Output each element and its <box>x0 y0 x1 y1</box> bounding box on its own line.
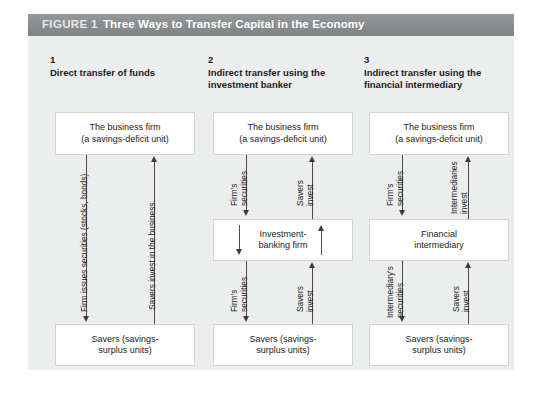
column-2-number: 2 <box>208 54 213 65</box>
column-2-upper-down-label-line2: securities <box>239 171 249 206</box>
column-1-number: 1 <box>50 54 55 65</box>
column-1-business-firm-line2: (a savings-deficit unit) <box>81 134 169 144</box>
column-2-upper-up-label-line1: Savers <box>295 180 305 206</box>
column-3-number: 3 <box>364 54 369 65</box>
column-2-upper-up-arrowhead <box>309 156 315 162</box>
column-2-lower-down-label-line2: securities <box>239 277 249 312</box>
column-3-heading: Indirect transfer using the financial in… <box>364 67 514 90</box>
column-2-inbox-down-arrow <box>236 225 243 255</box>
column-1-up-arrowhead <box>151 156 157 162</box>
column-2-upper-down-arrow-label: Firm's securities <box>230 171 249 206</box>
column-3-upper-up-label-line2: invest <box>459 192 469 214</box>
column-1-down-arrow-label: Firm issues securities (stocks, bonds) <box>80 174 90 312</box>
column-2-lower-down-arrow-label: Firm's securities <box>230 277 249 312</box>
column-2-lower-down-arrowhead <box>243 316 249 322</box>
column-2-business-firm-line1: The business firm <box>247 122 318 132</box>
column-3-financial-intermediary-box: Financial intermediary <box>369 219 509 261</box>
column-3-upper-up-label-line1: Intermediaries <box>449 161 459 214</box>
column-1-heading: Direct transfer of funds <box>50 67 200 79</box>
column-2-inbox-up-arrow <box>318 225 325 255</box>
column-1-business-firm-line1: The business firm <box>89 122 160 132</box>
column-3-heading-line2: financial intermediary <box>364 79 462 90</box>
column-2-savers-box: Savers (savings- surplus units) <box>213 324 353 366</box>
column-3-upper-down-label-line1: Firm's <box>385 184 395 206</box>
column-3-middle-box-line2: intermediary <box>414 240 464 250</box>
column-3-lower-down-arrow-label: Intermediary's securities <box>386 266 405 318</box>
figure-header-bar: FIGURE 1 Three Ways to Transfer Capital … <box>28 14 514 36</box>
column-2-savers-line2: surplus units) <box>256 345 310 355</box>
column-3-lower-up-arrow-label: Savers invest <box>452 286 471 312</box>
column-2-heading: Indirect transfer using the investment b… <box>208 67 358 90</box>
column-2-middle-box-line1: Investment- <box>259 229 306 239</box>
column-2-middle-box-line2: banking firm <box>258 240 307 250</box>
column-3-upper-down-arrow-label: Firm's securities <box>386 171 405 206</box>
column-3-savers-box: Savers (savings- surplus units) <box>369 324 509 366</box>
column-2-savers-line1: Savers (savings- <box>249 334 316 344</box>
column-3-lower-up-arrowhead <box>465 262 471 268</box>
column-3-heading-line1: Indirect transfer using the <box>364 67 481 78</box>
column-2-heading-line1: Indirect transfer using the <box>208 67 325 78</box>
column-3-lower-down-label-line1: Intermediary's <box>385 266 395 318</box>
column-3-savers-line1: Savers (savings- <box>405 334 472 344</box>
column-1-savers-line2: surplus units) <box>98 345 152 355</box>
figure-panel: FIGURE 1 Three Ways to Transfer Capital … <box>28 14 514 370</box>
column-3-lower-down-label-line2: securities <box>395 283 405 318</box>
column-1-savers-line1: Savers (savings- <box>91 334 158 344</box>
column-3-upper-down-arrowhead <box>399 210 405 216</box>
column-3-lower-up-label-line1: Savers <box>451 286 461 312</box>
column-3-financial-intermediary: 3 Indirect transfer using the financial … <box>364 54 514 366</box>
column-2-lower-up-label-line1: Savers <box>295 286 305 312</box>
column-1-down-arrowhead <box>83 316 89 322</box>
column-1-savers-box: Savers (savings- surplus units) <box>55 324 195 366</box>
figure-title: Three Ways to Transfer Capital in the Ec… <box>103 18 365 30</box>
column-2-lower-up-arrow-label: Savers invest <box>296 286 315 312</box>
column-2-upper-down-label-line1: Firm's <box>229 184 239 206</box>
column-3-lower-up-label-line2: invest <box>461 290 471 312</box>
column-3-business-firm-line2: (a savings-deficit unit) <box>395 134 483 144</box>
column-1-business-firm-box: The business firm (a savings-deficit uni… <box>55 112 195 155</box>
column-1-up-arrow-label: Savers invest in the business <box>148 203 158 310</box>
column-2-upper-up-arrow-label: Savers invest <box>296 180 315 206</box>
column-3-upper-up-arrow-label: Intermediaries invest <box>450 161 469 214</box>
column-3-upper-down-label-line2: securities <box>395 171 405 206</box>
column-3-savers-line2: surplus units) <box>412 345 466 355</box>
column-2-business-firm-box: The business firm (a savings-deficit uni… <box>213 112 353 155</box>
column-3-business-firm-box: The business firm (a savings-deficit uni… <box>369 112 509 155</box>
column-2-upper-up-label-line2: invest <box>305 184 315 206</box>
column-2-upper-down-arrowhead <box>243 210 249 216</box>
column-2-lower-up-label-line2: invest <box>305 290 315 312</box>
column-2-investment-banker: 2 Indirect transfer using the investment… <box>208 54 358 366</box>
column-2-investment-banking-firm-box: Investment- banking firm <box>213 219 353 261</box>
figure-number-label: FIGURE 1 <box>42 18 98 30</box>
column-2-lower-up-arrowhead <box>309 262 315 268</box>
column-3-business-firm-line1: The business firm <box>403 122 474 132</box>
column-1-direct-transfer: 1 Direct transfer of funds The business … <box>50 54 200 366</box>
column-3-middle-box-line1: Financial <box>421 229 457 239</box>
column-2-lower-down-label-line1: Firm's <box>229 290 239 312</box>
column-2-heading-line2: investment banker <box>208 79 292 90</box>
column-2-business-firm-line2: (a savings-deficit unit) <box>239 134 327 144</box>
